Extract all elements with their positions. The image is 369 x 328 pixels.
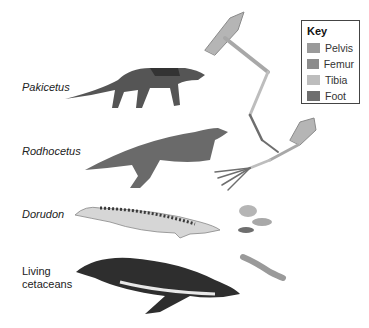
label-living-cetaceans: Living cetaceans — [22, 265, 72, 291]
femur-swatch — [307, 59, 319, 69]
foot-swatch — [307, 91, 320, 101]
label-living-line2: cetaceans — [22, 278, 72, 291]
tibia-swatch — [307, 75, 320, 85]
rodhocetus-hindlimb — [215, 118, 316, 190]
key-label: Pelvis — [325, 42, 353, 54]
label-pakicetus: Pakicetus — [22, 81, 70, 94]
key-label: Foot — [325, 90, 346, 102]
key-label: Femur — [324, 58, 354, 70]
whale-illustration — [76, 258, 240, 314]
whale-pelvis — [243, 257, 283, 278]
label-living-line1: Living — [22, 265, 72, 278]
key-legend: Key Pelvis Femur Tibia Foot — [301, 20, 360, 104]
pelvis-swatch — [307, 43, 320, 53]
key-item-tibia: Tibia — [307, 72, 354, 88]
key-item-femur: Femur — [307, 56, 354, 72]
key-label: Tibia — [325, 74, 347, 86]
key-title: Key — [307, 25, 354, 37]
label-rodhocetus: Rodhocetus — [22, 145, 81, 158]
dorudon-illustration — [75, 207, 220, 238]
label-dorudon: Dorudon — [22, 208, 64, 221]
rodhocetus-illustration — [85, 128, 228, 188]
pakicetus-illustration — [65, 68, 205, 108]
key-item-pelvis: Pelvis — [307, 40, 354, 56]
dorudon-hindlimb — [238, 205, 272, 233]
key-item-foot: Foot — [307, 88, 354, 104]
